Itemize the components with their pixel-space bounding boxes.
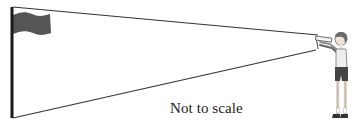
observer-boy-icon	[315, 32, 348, 118]
sight-line-bottom	[13, 50, 316, 118]
not-to-scale-caption: Not to scale	[170, 100, 243, 117]
sight-line-top	[13, 7, 318, 35]
flagpole	[11, 7, 14, 118]
flag-icon	[13, 12, 51, 35]
